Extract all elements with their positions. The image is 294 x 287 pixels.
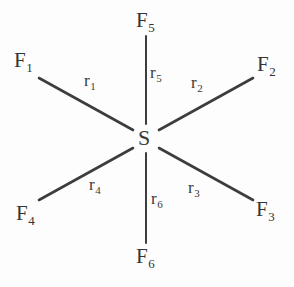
atom-index-subscript: 3 [268,209,275,224]
atom-label-f3: F3 [256,199,274,220]
bond-symbol: r [84,71,90,90]
bond-index-subscript: 4 [95,184,101,196]
bond-index-subscript: 1 [90,80,96,92]
atom-element-symbol: F [16,201,28,225]
bond-index-subscript: 3 [194,187,200,199]
bond-line-r3 [159,148,253,200]
atom-label-f2: F2 [257,54,275,75]
atom-element-symbol: F [136,244,148,268]
atom-element-symbol: F [14,48,26,72]
molecular-structure-figure: F1F2F3F4F5F6 r1r2r3r4r5r6 S [0,0,294,287]
bond-symbol: r [191,73,197,92]
bond-length-label-r3: r3 [188,179,199,196]
atom-element-symbol: F [136,8,148,32]
atom-index-subscript: 1 [26,60,33,75]
atom-element-symbol: F [256,197,268,221]
atom-label-f4: F4 [16,203,34,224]
atom-label-f6: F6 [136,246,154,267]
atom-index-subscript: 4 [28,213,35,228]
atom-index-subscript: 5 [148,20,155,35]
bond-length-label-r4: r4 [89,176,100,193]
bond-symbol: r [188,178,194,197]
center-atom-label: S [138,127,150,149]
bond-length-label-r1: r1 [84,72,95,89]
atom-index-subscript: 6 [148,256,155,271]
bond-symbol: r [151,189,157,208]
bond-index-subscript: 5 [156,72,162,84]
atom-index-subscript: 2 [269,64,276,79]
bond-line-r4 [39,148,133,200]
atom-label-f5: F5 [136,10,154,31]
bond-length-label-r2: r2 [191,74,202,91]
bond-line-r2 [159,78,253,130]
bond-index-subscript: 2 [197,82,203,94]
bond-symbol: r [150,63,156,82]
atom-element-symbol: F [257,52,269,76]
bond-length-label-r5: r5 [150,64,161,81]
bond-symbol: r [89,175,95,194]
bond-length-label-r6: r6 [151,190,162,207]
atom-label-f1: F1 [14,50,32,71]
bond-index-subscript: 6 [157,198,163,210]
